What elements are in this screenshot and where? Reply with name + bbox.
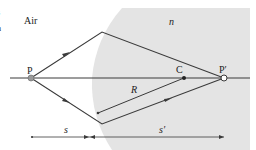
label-C: C [176, 64, 183, 75]
label-R: R [130, 84, 137, 95]
upper-ray-arrow-icon [62, 52, 70, 57]
refraction-diagram: Air n P C P′ R s s′ s n [0, 0, 256, 150]
radius-end-dot [97, 112, 100, 115]
image-point-P-prime [221, 75, 227, 81]
label-air: Air [24, 15, 38, 26]
dim-start-dot [31, 136, 33, 138]
dim-s-prime-arrow-icon [90, 135, 95, 139]
label-n: n [169, 16, 174, 27]
label-P-prime: P′ [219, 64, 227, 75]
center-point-C [182, 76, 186, 80]
dim-s-arrow-icon [84, 135, 89, 139]
edge-fragment-2: n [0, 24, 1, 33]
label-P: P [27, 65, 33, 76]
label-s: s [64, 124, 68, 135]
label-s-prime: s′ [159, 124, 166, 135]
